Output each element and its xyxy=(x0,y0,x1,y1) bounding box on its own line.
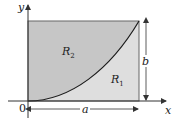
width-label-a: a xyxy=(82,103,89,116)
origin-label: 0 xyxy=(19,102,26,115)
y-axis-label: y xyxy=(17,1,25,14)
area-diagram: y x 0 a b R2 R1 xyxy=(0,0,175,125)
height-label-b: b xyxy=(142,55,149,68)
x-axis-label: x xyxy=(165,104,172,117)
